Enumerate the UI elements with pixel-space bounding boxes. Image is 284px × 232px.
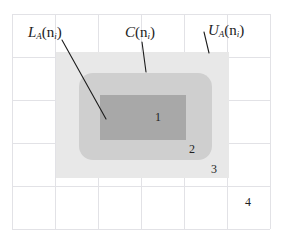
label-core-arg-close: ) bbox=[150, 24, 155, 40]
label-upper-base: U bbox=[208, 22, 219, 38]
region-marker-4: 4 bbox=[245, 196, 251, 208]
label-upper-arg-open: (n bbox=[224, 22, 237, 38]
region-marker-3: 3 bbox=[211, 163, 217, 175]
approximation-regions bbox=[56, 52, 229, 178]
region-marker-1: 1 bbox=[155, 111, 161, 123]
label-upper-arg-close: ) bbox=[239, 22, 244, 38]
label-core: C(ni) bbox=[125, 24, 155, 41]
label-lower-approximation: LA(ni) bbox=[28, 24, 62, 41]
label-upper-approximation: UA(ni) bbox=[208, 22, 244, 39]
label-core-base: C bbox=[125, 24, 135, 40]
lower-approximation-region bbox=[100, 95, 186, 140]
label-lower-arg-close: ) bbox=[57, 24, 62, 40]
label-core-arg-open: (n bbox=[135, 24, 148, 40]
figure-canvas: LA(ni) C(ni) UA(ni) 1234 bbox=[0, 0, 284, 232]
label-lower-arg-open: (n bbox=[42, 24, 55, 40]
region-marker-2: 2 bbox=[189, 143, 195, 155]
